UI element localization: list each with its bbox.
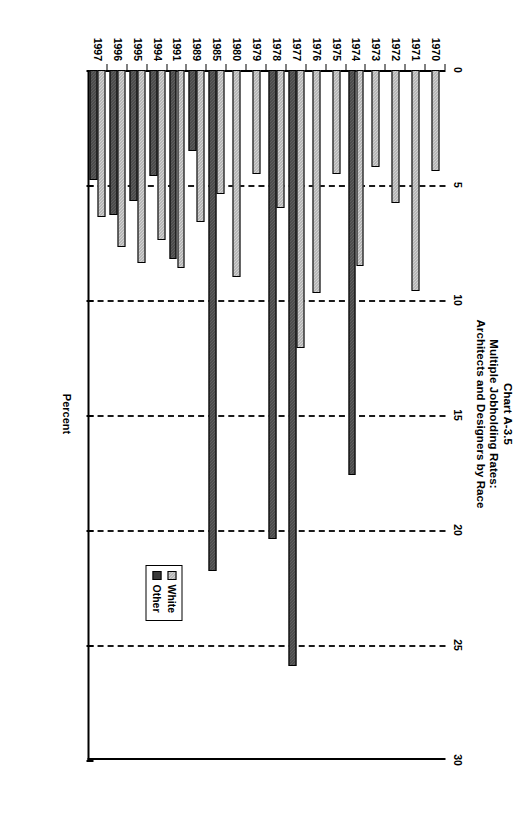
y-tick: [384, 64, 385, 70]
y-tick: [166, 64, 167, 70]
bar-white-1994: [157, 70, 165, 240]
y-tick-label: 1994: [151, 38, 163, 61]
x-tick-label: 30: [451, 754, 463, 766]
chart-canvas: Chart A-3.5 Multiple Jobholding Rates: A…: [0, 0, 527, 828]
bar-white-1970: [431, 70, 439, 171]
bar-other-1974: [348, 70, 356, 475]
y-tick: [106, 64, 107, 70]
y-tick-label: 1979: [250, 38, 262, 61]
gridline: [87, 415, 445, 417]
bar-white-1978: [276, 70, 284, 208]
bar-white-1989: [196, 70, 204, 222]
y-tick: [205, 64, 206, 70]
bar-white-1975: [332, 70, 340, 174]
x-tick-label: 5: [451, 182, 463, 188]
chart-title: Chart A-3.5 Multiple Jobholding Rates: A…: [473, 0, 514, 828]
y-tick: [225, 64, 226, 70]
y-tick-label: 1975: [330, 38, 342, 61]
legend-item-white: White: [165, 571, 177, 614]
bar-white-1995: [137, 70, 145, 263]
x-axis-label: Percent: [60, 0, 72, 828]
bar-other-1996: [109, 70, 117, 215]
legend-swatch-other-icon: [152, 571, 161, 580]
y-tick-label: 1978: [270, 38, 282, 61]
x-tick: [86, 760, 93, 762]
y-tick-label: 1972: [389, 38, 401, 61]
x-tick-label: 15: [451, 409, 463, 421]
gridline: [87, 645, 445, 647]
x-tick: [86, 530, 93, 532]
y-tick: [265, 64, 266, 70]
title-line-3: Architects and Designers by Race: [473, 0, 487, 828]
y-tick-label: 1985: [210, 38, 222, 61]
y-tick-label: 1989: [190, 38, 202, 61]
y-tick: [424, 64, 425, 70]
bar-other-1994: [149, 70, 157, 176]
x-tick-label: 20: [451, 524, 463, 536]
y-tick: [185, 64, 186, 70]
bar-other-1995: [129, 70, 137, 201]
bar-white-1971: [411, 70, 419, 291]
title-line-1: Chart A-3.5: [500, 0, 514, 828]
y-tick: [305, 64, 306, 70]
gridline: [87, 530, 445, 532]
bar-other-1989: [188, 70, 196, 151]
x-tick: [86, 300, 93, 302]
y-tick-label: 1997: [91, 38, 103, 61]
x-tick: [86, 185, 93, 187]
bar-other-1991: [169, 70, 177, 259]
bar-white-1977: [296, 70, 304, 348]
title-line-2: Multiple Jobholding Rates:: [486, 0, 500, 828]
x-tick-label: 25: [451, 639, 463, 651]
legend-swatch-white-icon: [167, 571, 176, 580]
y-tick: [325, 64, 326, 70]
y-tick-label: 1995: [131, 38, 143, 61]
y-tick-label: 1970: [429, 38, 441, 61]
chart-page: Chart A-3.5 Multiple Jobholding Rates: A…: [0, 0, 527, 828]
x-tick-label: 0: [451, 67, 463, 73]
plot-right-border: [87, 758, 445, 760]
legend-label-white: White: [165, 585, 177, 614]
bar-white-1973: [371, 70, 379, 167]
bar-white-1980: [232, 70, 240, 277]
y-tick-label: 1974: [350, 38, 362, 61]
bar-other-1978: [268, 70, 276, 539]
legend-item-other: Other: [150, 571, 162, 614]
y-tick: [345, 64, 346, 70]
y-tick-label: 1980: [230, 38, 242, 61]
y-tick: [245, 64, 246, 70]
legend-label-other: Other: [150, 585, 162, 613]
bar-other-1985: [208, 70, 216, 571]
y-tick-label: 1991: [171, 38, 183, 61]
y-tick: [364, 64, 365, 70]
plot-area: 051015202530 197019711972197319741975197…: [87, 70, 445, 760]
bar-white-1991: [177, 70, 185, 268]
bar-other-1977: [288, 70, 296, 666]
y-tick: [126, 64, 127, 70]
y-tick: [146, 64, 147, 70]
y-tick-label: 1996: [111, 38, 123, 61]
bar-white-1976: [312, 70, 320, 293]
y-tick-label: 1973: [369, 38, 381, 61]
bar-white-1979: [252, 70, 260, 174]
x-tick: [86, 415, 93, 417]
x-tick-label: 10: [451, 294, 463, 306]
y-tick-label: 1971: [409, 38, 421, 61]
y-tick: [404, 64, 405, 70]
bar-white-1996: [117, 70, 125, 247]
bar-white-1972: [391, 70, 399, 203]
gridline: [87, 300, 445, 302]
bar-white-1997: [97, 70, 105, 217]
y-tick-label: 1977: [290, 38, 302, 61]
bar-other-1997: [89, 70, 97, 180]
y-tick: [444, 64, 445, 70]
y-tick: [285, 64, 286, 70]
y-tick-label: 1976: [310, 38, 322, 61]
x-tick: [86, 645, 93, 647]
chart-legend: White Other: [145, 565, 182, 622]
bar-white-1985: [216, 70, 224, 194]
bar-white-1974: [356, 70, 364, 266]
